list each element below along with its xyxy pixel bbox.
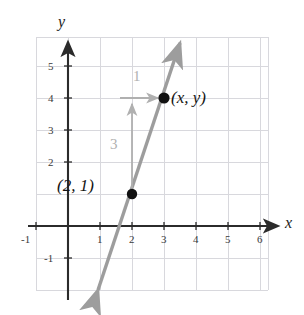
label-point-2-1: (2, 1) xyxy=(57,177,94,194)
axis-lines xyxy=(28,42,278,300)
rise-label: 3 xyxy=(110,137,118,152)
point-2-1 xyxy=(127,189,137,199)
x-tick-4: 4 xyxy=(193,234,199,245)
x-tick-1: 1 xyxy=(97,234,103,245)
y-tick-3: 3 xyxy=(48,125,54,136)
y-tick-4: 4 xyxy=(48,93,54,104)
y-tick-5: 5 xyxy=(48,61,54,72)
graph-figure: 5 4 3 2 -1 -1 1 2 3 4 5 6 y x (2, 1) (x,… xyxy=(0,0,304,315)
x-tick-neg1: -1 xyxy=(21,234,30,245)
coordinate-plane-svg xyxy=(0,0,304,315)
point-x-y xyxy=(158,92,169,103)
grid-lines xyxy=(36,37,268,290)
x-tick-3: 3 xyxy=(161,234,167,245)
run-label: 1 xyxy=(133,69,141,84)
y-tick-neg1: -1 xyxy=(44,253,53,264)
x-tick-5: 5 xyxy=(225,234,231,245)
x-tick-2: 2 xyxy=(129,234,135,245)
y-tick-2: 2 xyxy=(48,157,54,168)
x-tick-6: 6 xyxy=(257,234,263,245)
y-axis-label: y xyxy=(58,14,65,30)
label-point-x-y: (x, y) xyxy=(171,89,206,106)
x-axis-label: x xyxy=(285,215,292,231)
slope-annotation-arrows xyxy=(120,98,158,192)
